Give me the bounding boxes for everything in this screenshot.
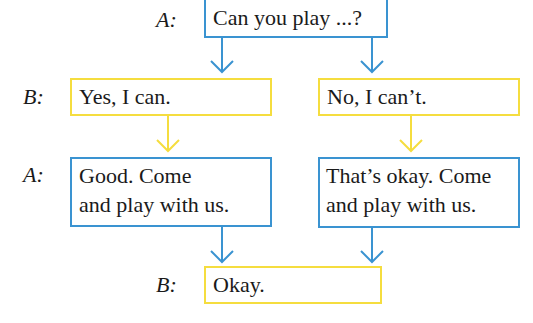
question-box: Can you play ...? <box>204 0 388 38</box>
thats-okay-text-line1: That’s okay. Come <box>326 161 511 190</box>
good-text-line1: Good. Come <box>79 161 263 190</box>
arrow-okay-to-final <box>361 227 383 262</box>
speaker-label-a-top: A: <box>156 7 177 33</box>
no-box: No, I can’t. <box>318 78 520 116</box>
arrow-question-to-yes <box>211 37 233 72</box>
arrow-no-to-okay <box>400 116 422 151</box>
arrow-question-to-no <box>361 37 383 72</box>
arrow-good-to-final <box>211 227 233 262</box>
good-text-line2: and play with us. <box>79 190 263 219</box>
yes-box: Yes, I can. <box>70 78 272 116</box>
final-text: Okay. <box>213 272 265 297</box>
yes-text: Yes, I can. <box>79 84 171 109</box>
speaker-label-b-bottom: B: <box>156 272 177 298</box>
speaker-label-a-middle: A: <box>23 162 44 188</box>
arrow-yes-to-good <box>157 116 179 151</box>
final-box: Okay. <box>204 266 382 304</box>
thats-okay-box: That’s okay. Come and play with us. <box>318 157 520 228</box>
question-text: Can you play ...? <box>213 5 362 30</box>
no-text: No, I can’t. <box>327 84 427 109</box>
good-box: Good. Come and play with us. <box>70 157 272 227</box>
speaker-label-b-middle: B: <box>23 84 44 110</box>
thats-okay-text-line2: and play with us. <box>326 190 511 219</box>
